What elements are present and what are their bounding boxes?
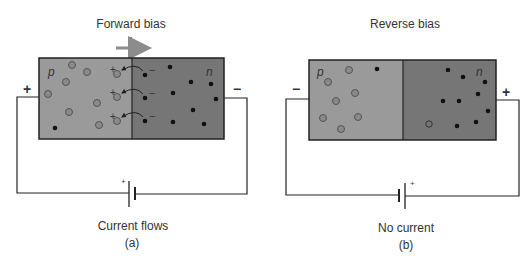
right-terminal-sign: + [502, 84, 510, 100]
caption-a: Current flows [98, 219, 169, 233]
battery-plus: + [410, 179, 415, 188]
left-terminal-sign: − [292, 81, 300, 97]
sublabel-a: (a) [125, 236, 140, 250]
electron-minority [375, 67, 380, 72]
svg-text:+: + [110, 111, 116, 122]
svg-text:+: + [110, 87, 116, 98]
n-label: n [476, 65, 483, 79]
battery-icon [399, 183, 405, 209]
electron-charges: − − − [149, 64, 155, 122]
battery-icon [129, 181, 135, 207]
n-label: n [206, 65, 213, 79]
reverse-bias-diagram: Reverse bias p n [286, 17, 519, 252]
battery-plus: + [121, 177, 126, 186]
hole-charges: + + + [110, 64, 116, 122]
pn-junction-diagram: Forward bias I p n + + + [0, 0, 532, 261]
svg-text:−: − [149, 64, 155, 76]
svg-text:−: − [149, 87, 155, 99]
forward-bias-diagram: Forward bias I p n + + + [17, 17, 247, 250]
svg-text:−: − [149, 110, 155, 122]
p-label: p [316, 65, 324, 79]
p-label: p [47, 65, 55, 79]
forward-bias-title: Forward bias [96, 17, 165, 31]
sublabel-b: (b) [399, 238, 414, 252]
caption-b: No current [378, 221, 435, 235]
reverse-bias-title: Reverse bias [370, 17, 440, 31]
svg-text:+: + [110, 64, 116, 75]
electron-minority [53, 126, 58, 131]
right-terminal-sign: − [233, 81, 241, 97]
left-terminal-sign: + [23, 81, 31, 97]
